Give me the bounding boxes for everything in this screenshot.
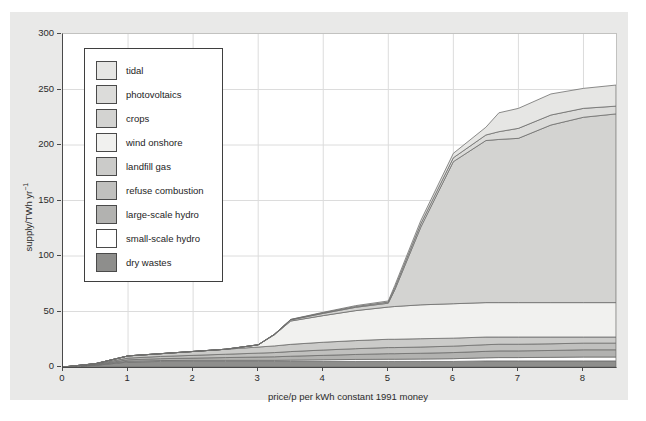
legend-swatch (96, 133, 117, 152)
x-tick-label: 3 (245, 372, 269, 383)
legend-label: dry wastes (126, 257, 171, 268)
legend-label: small-scale hydro (126, 233, 200, 244)
y-tickmark (57, 366, 61, 367)
x-tick-label: 2 (180, 372, 204, 383)
legend-label: wind onshore (126, 137, 183, 148)
y-tickmark (57, 311, 61, 312)
legend-swatch (96, 61, 117, 80)
x-tick-label: 8 (570, 372, 594, 383)
y-tickmark (57, 200, 61, 201)
y-axis-label-exponent: −1 (22, 183, 29, 191)
y-axis-label-text: supply/TWh yr (23, 191, 34, 252)
legend-item-landfill-gas: landfill gas (96, 154, 222, 178)
x-tick-label: 1 (115, 372, 139, 383)
legend-swatch (96, 181, 117, 200)
legend-swatch (96, 109, 117, 128)
x-axis-label: price/p per kWh constant 1991 money (198, 391, 498, 402)
legend-label: large-scale hydro (126, 209, 199, 220)
x-tickmark (452, 367, 453, 371)
x-tickmark (127, 367, 128, 371)
legend-item-photovoltaics: photovoltaics (96, 82, 222, 106)
y-tickmark (57, 255, 61, 256)
y-tick-label: 300 (26, 27, 54, 38)
chart-legend: tidalphotovoltaicscropswind onshorelandf… (84, 48, 223, 282)
y-tick-label: 250 (26, 83, 54, 94)
legend-swatch (96, 253, 117, 272)
legend-item-small-scale-hydro: small-scale hydro (96, 226, 222, 250)
x-tick-label: 6 (440, 372, 464, 383)
y-tick-label: 200 (26, 138, 54, 149)
x-tick-label: 0 (50, 372, 74, 383)
legend-item-refuse-combustion: refuse combustion (96, 178, 222, 202)
legend-label: crops (126, 113, 149, 124)
legend-item-dry-wastes: dry wastes (96, 250, 222, 274)
legend-item-crops: crops (96, 106, 222, 130)
y-tickmark (57, 144, 61, 145)
legend-swatch (96, 157, 117, 176)
legend-label: tidal (126, 65, 143, 76)
x-tickmark (62, 367, 63, 371)
x-tickmark (582, 367, 583, 371)
y-tickmark (57, 33, 61, 34)
y-tick-label: 50 (26, 305, 54, 316)
x-tickmark (192, 367, 193, 371)
legend-label: refuse combustion (126, 185, 204, 196)
x-tick-label: 4 (310, 372, 334, 383)
y-tick-label: 0 (26, 360, 54, 371)
legend-swatch (96, 85, 117, 104)
legend-item-large-scale-hydro: large-scale hydro (96, 202, 222, 226)
y-axis-label: supply/TWh yr−1 (22, 162, 34, 272)
legend-swatch (96, 229, 117, 248)
legend-swatch (96, 205, 117, 224)
x-tickmark (257, 367, 258, 371)
x-tick-label: 5 (375, 372, 399, 383)
x-tick-label: 7 (505, 372, 529, 383)
legend-item-tidal: tidal (96, 58, 222, 82)
legend-label: photovoltaics (126, 89, 181, 100)
legend-label: landfill gas (126, 161, 171, 172)
x-tickmark (387, 367, 388, 371)
legend-item-wind-onshore: wind onshore (96, 130, 222, 154)
y-tickmark (57, 89, 61, 90)
figure-panel: 012345678050100150200250300 supply/TWh y… (10, 12, 628, 400)
x-tickmark (322, 367, 323, 371)
x-tickmark (517, 367, 518, 371)
